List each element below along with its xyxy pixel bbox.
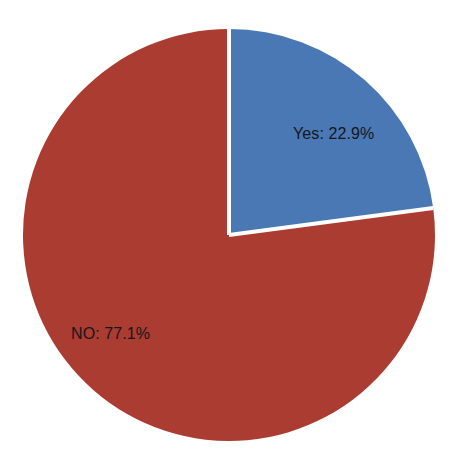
pie-chart-figure: Yes: 22.9% NO: 77.1%: [0, 0, 456, 467]
pie-label-yes: Yes: 22.9%: [293, 126, 374, 142]
pie-label-no: NO: 77.1%: [71, 326, 150, 342]
pie-chart-canvas: [0, 0, 456, 467]
